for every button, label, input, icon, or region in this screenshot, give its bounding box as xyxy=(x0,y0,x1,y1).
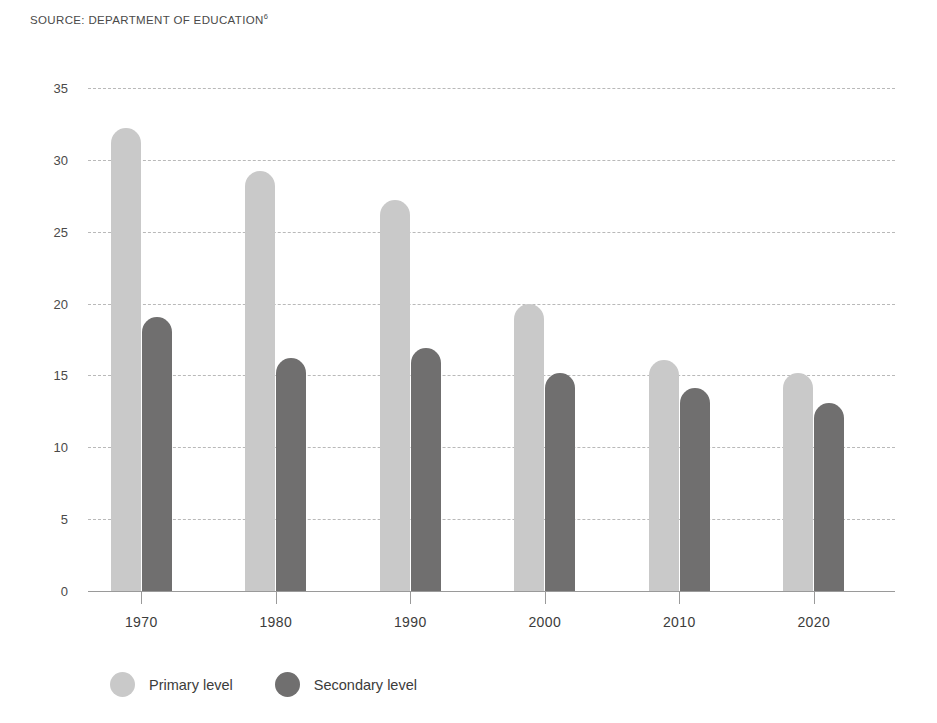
y-axis-tick-label: 10 xyxy=(24,440,68,455)
bar-2000-primary xyxy=(514,304,544,591)
y-axis-tick-label: 5 xyxy=(24,512,68,527)
legend-item-primary: Primary level xyxy=(110,672,233,697)
bar-1970-primary xyxy=(111,128,141,591)
y-axis-tick-label: 0 xyxy=(24,584,68,599)
y-axis-tick-label: 35 xyxy=(24,81,68,96)
gridline-25 xyxy=(88,232,895,233)
bar-2010-secondary xyxy=(680,388,710,591)
x-axis-label-2000: 2000 xyxy=(500,614,590,630)
source-caption: SOURCE: DEPARTMENT OF EDUCATION6 xyxy=(30,14,268,26)
bar-2010-primary xyxy=(649,360,679,591)
bar-1980-primary xyxy=(245,171,275,591)
x-axis-label-1970: 1970 xyxy=(96,614,186,630)
x-axis-label-1980: 1980 xyxy=(231,614,321,630)
x-axis-tick-2000 xyxy=(545,591,546,604)
gridline-30 xyxy=(88,160,895,161)
legend-swatch-icon xyxy=(275,672,300,697)
x-axis-tick-1980 xyxy=(276,591,277,604)
legend-label: Secondary level xyxy=(314,677,417,693)
source-text: SOURCE: DEPARTMENT OF EDUCATION xyxy=(30,14,264,26)
legend-swatch-icon xyxy=(110,672,135,697)
x-axis-label-1990: 1990 xyxy=(365,614,455,630)
bar-1990-primary xyxy=(380,200,410,591)
x-axis-tick-2020 xyxy=(814,591,815,604)
bar-1970-secondary xyxy=(142,317,172,591)
bar-1980-secondary xyxy=(276,358,306,591)
bar-1990-secondary xyxy=(411,348,441,591)
y-axis-tick-label: 25 xyxy=(24,224,68,239)
chart-legend: Primary levelSecondary level xyxy=(110,672,417,697)
source-footnote-marker: 6 xyxy=(264,12,269,21)
bar-2020-primary xyxy=(783,373,813,591)
x-axis-tick-2010 xyxy=(679,591,680,604)
y-axis-tick-label: 20 xyxy=(24,296,68,311)
y-axis-tick-label: 15 xyxy=(24,368,68,383)
legend-item-secondary: Secondary level xyxy=(275,672,417,697)
y-axis-tick-label: 30 xyxy=(24,152,68,167)
x-axis-label-2010: 2010 xyxy=(634,614,724,630)
x-axis-baseline xyxy=(88,591,895,592)
gridline-10 xyxy=(88,447,895,448)
gridline-15 xyxy=(88,375,895,376)
bar-2020-secondary xyxy=(814,403,844,591)
bar-2000-secondary xyxy=(545,373,575,591)
x-axis-tick-1970 xyxy=(141,591,142,604)
bar-chart: SOURCE: DEPARTMENT OF EDUCATION6 0510152… xyxy=(0,0,937,723)
x-axis-label-2020: 2020 xyxy=(769,614,859,630)
legend-label: Primary level xyxy=(149,677,233,693)
gridline-35 xyxy=(88,88,895,89)
x-axis-tick-1990 xyxy=(410,591,411,604)
gridline-5 xyxy=(88,519,895,520)
gridline-20 xyxy=(88,304,895,305)
